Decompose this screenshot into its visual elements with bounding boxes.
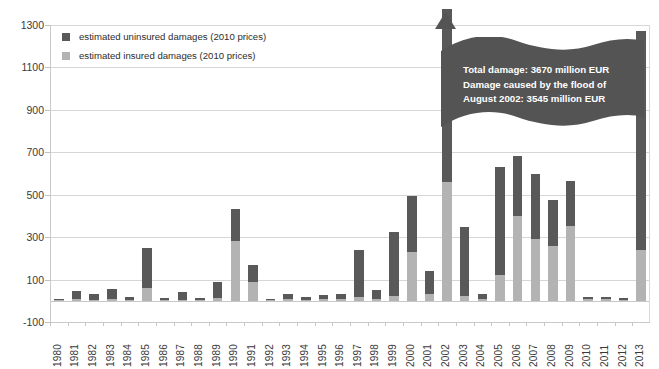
x-axis: 1980198119821983198419851986198719881989… <box>50 323 650 369</box>
legend-item-uninsured: estimated uninsured damages (2010 prices… <box>62 27 266 46</box>
y-axis-line <box>50 25 51 322</box>
bar-segment-insured-1995 <box>319 299 329 300</box>
bar-segment-insured-2010 <box>583 299 593 301</box>
legend-item-insured: estimated insured damages (2010 prices) <box>62 46 266 65</box>
x-tick-mark-1980 <box>50 322 51 326</box>
bar-segment-insured-1980 <box>54 300 64 301</box>
bar-1988 <box>195 298 205 301</box>
x-tick-label-2001: 2001 <box>422 323 436 367</box>
bar-segment-uninsured-2011 <box>601 297 611 299</box>
y-tick-label--100: -100 <box>0 317 44 327</box>
bar-2012 <box>619 298 629 301</box>
x-tick-label-2002: 2002 <box>440 323 454 367</box>
bar-segment-insured-2011 <box>601 299 611 300</box>
bar-segment-uninsured-1981 <box>72 291 82 299</box>
x-tick-label-1983: 1983 <box>105 323 119 367</box>
bar-segment-insured-1999 <box>389 296 399 301</box>
x-tick-label-2010: 2010 <box>581 323 595 367</box>
x-tick-label-1989: 1989 <box>211 323 225 367</box>
y-axis: 13001100900700500300100-100 <box>0 0 50 369</box>
bar-segment-insured-1985 <box>142 288 152 301</box>
bar-segment-insured-1994 <box>301 300 311 301</box>
x-tick-label-1990: 1990 <box>228 323 242 367</box>
x-tick-label-1998: 1998 <box>369 323 383 367</box>
gridline-zero <box>50 301 650 302</box>
x-tick-mark-2003 <box>456 322 457 326</box>
x-tick-mark-2006 <box>509 322 510 326</box>
bar-1982 <box>89 294 99 301</box>
x-tick-label-1999: 1999 <box>387 323 401 367</box>
x-tick-mark-1982 <box>85 322 86 326</box>
bar-1990 <box>231 209 241 301</box>
bar-segment-insured-2005 <box>495 275 505 300</box>
x-tick-mark-1994 <box>297 322 298 326</box>
x-tick-label-1995: 1995 <box>317 323 331 367</box>
bar-segment-insured-2012 <box>619 300 629 301</box>
bar-segment-insured-1998 <box>372 299 382 300</box>
bar-segment-insured-2001 <box>425 294 435 300</box>
legend-label-insured: estimated insured damages (2010 prices) <box>79 50 256 61</box>
x-tick-mark-2009 <box>562 322 563 326</box>
bar-segment-uninsured-2009 <box>566 181 576 226</box>
x-tick-mark-1989 <box>209 322 210 326</box>
x-tick-label-1996: 1996 <box>334 323 348 367</box>
bar-segment-insured-1987 <box>178 300 188 301</box>
x-tick-mark-1988 <box>191 322 192 326</box>
x-tick-label-1991: 1991 <box>246 323 260 367</box>
y-tick-label-1300: 1300 <box>0 20 44 30</box>
bar-segment-uninsured-1996 <box>336 294 346 299</box>
bar-1984 <box>125 297 135 301</box>
y-tick-label-700: 700 <box>0 147 44 157</box>
y-tick-label-1100: 1100 <box>0 62 44 72</box>
x-tick-label-2005: 2005 <box>493 323 507 367</box>
x-tick-mark-1981 <box>68 322 69 326</box>
gridline-300 <box>50 237 650 238</box>
bar-segment-insured-2008 <box>548 246 558 301</box>
y-tick-label-100: 100 <box>0 275 44 285</box>
bar-segment-uninsured-2007 <box>531 174 541 240</box>
x-tick-label-1986: 1986 <box>158 323 172 367</box>
bar-2009 <box>566 181 576 301</box>
x-tick-mark-2011 <box>597 322 598 326</box>
bar-segment-insured-1992 <box>266 300 276 301</box>
x-tick-label-1997: 1997 <box>352 323 366 367</box>
flood-annotation-text: Total damage: 3670 million EUR Damage ca… <box>463 63 638 107</box>
bar-segment-uninsured-1982 <box>89 294 99 300</box>
bar-segment-uninsured-1999 <box>389 232 399 296</box>
bar-2008 <box>548 200 558 301</box>
bar-2006 <box>513 155 523 300</box>
bar-segment-uninsured-1987 <box>178 292 188 300</box>
bar-2004 <box>478 294 488 300</box>
bar-segment-uninsured-2001 <box>425 271 435 294</box>
annotation-line-2: Damage caused by the flood of <box>463 78 638 93</box>
bar-segment-insured-2013 <box>636 250 646 301</box>
bar-segment-uninsured-1997 <box>354 250 364 297</box>
x-tick-mark-2008 <box>544 322 545 326</box>
bar-segment-uninsured-2006 <box>513 156 523 216</box>
bar-segment-insured-1990 <box>231 241 241 300</box>
x-tick-label-1987: 1987 <box>175 323 189 367</box>
x-tick-label-2007: 2007 <box>528 323 542 367</box>
bar-segment-insured-2000 <box>407 252 417 301</box>
bar-segment-insured-1981 <box>72 299 82 301</box>
x-tick-label-1982: 1982 <box>87 323 101 367</box>
x-tick-label-1993: 1993 <box>281 323 295 367</box>
x-tick-mark-1992 <box>262 322 263 326</box>
bar-segment-uninsured-1986 <box>160 298 170 299</box>
bar-segment-insured-1982 <box>89 300 99 301</box>
bar-segment-uninsured-2000 <box>407 196 417 252</box>
chart-legend: estimated uninsured damages (2010 prices… <box>62 27 266 65</box>
bar-segment-uninsured-1990 <box>231 209 241 242</box>
bar-1981 <box>72 291 82 301</box>
bar-segment-insured-2006 <box>513 216 523 301</box>
x-tick-mark-1983 <box>103 322 104 326</box>
bar-segment-insured-1988 <box>195 300 205 301</box>
flood-annotation: Total damage: 3670 million EUR Damage ca… <box>441 37 644 137</box>
bar-segment-uninsured-1988 <box>195 298 205 300</box>
bar-1992 <box>266 300 276 301</box>
bar-segment-insured-1984 <box>125 300 135 301</box>
bar-segment-insured-2003 <box>460 296 470 301</box>
x-tick-label-2013: 2013 <box>634 323 648 367</box>
bar-segment-uninsured-1994 <box>301 297 311 300</box>
gridline-1300 <box>50 25 650 26</box>
